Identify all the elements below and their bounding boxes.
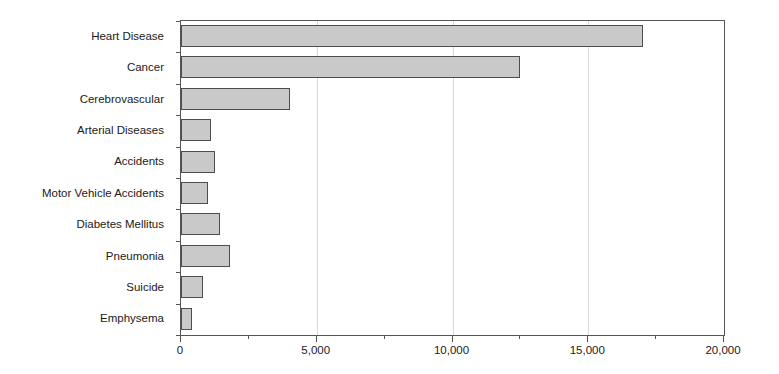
category-label: Suicide [126,279,164,295]
bar-row [181,304,724,335]
category-tick [176,304,181,305]
bar-row [181,84,724,115]
category-label: Cerebrovascular [80,91,164,107]
x-tick-label: 5,000 [301,344,330,356]
category-axis-labels: Heart DiseaseCancerCerebrovascularArteri… [0,20,172,334]
x-tick-major [180,335,181,342]
bar-row [181,52,724,83]
bar-row [181,209,724,240]
category-tick [176,147,181,148]
category-tick [176,115,181,116]
x-tick-label: 10,000 [434,344,469,356]
bar-row [181,21,724,52]
category-label: Diabetes Mellitus [76,216,164,232]
category-label: Heart Disease [91,28,164,44]
category-tick [176,241,181,242]
category-label: Emphysema [100,310,164,326]
bar[interactable] [181,56,520,78]
x-tick-major [723,335,724,342]
bar[interactable] [181,151,215,173]
bar[interactable] [181,88,290,110]
x-tick-major [587,335,588,342]
bar[interactable] [181,308,192,330]
x-tick-minor [519,335,520,339]
category-tick [176,272,181,273]
x-tick-label: 0 [177,344,183,356]
x-tick-minor [384,335,385,339]
bar-row [181,115,724,146]
bar-row [181,241,724,272]
category-label: Accidents [114,153,164,169]
bar[interactable] [181,25,643,47]
category-tick [176,21,181,22]
bar-row [181,272,724,303]
category-label: Pneumonia [106,248,164,264]
bar[interactable] [181,182,208,204]
x-tick-label: 15,000 [570,344,605,356]
bar-row [181,147,724,178]
category-tick [176,178,181,179]
category-tick [176,209,181,210]
category-label: Arterial Diseases [77,122,164,138]
bar[interactable] [181,245,230,267]
bar[interactable] [181,213,220,235]
x-axis-ticks [180,335,723,343]
bar-row [181,178,724,209]
bar[interactable] [181,276,203,298]
category-tick [176,52,181,53]
category-tick [176,84,181,85]
plot-area [180,20,725,336]
x-tick-label: 20,000 [705,344,740,356]
category-label: Cancer [127,59,164,75]
x-tick-major [452,335,453,342]
x-axis-tick-labels: 05,00010,00015,00020,000 [0,344,779,364]
bar[interactable] [181,119,211,141]
x-tick-major [316,335,317,342]
category-label: Motor Vehicle Accidents [42,185,164,201]
bar-chart: Heart DiseaseCancerCerebrovascularArteri… [0,0,779,374]
x-tick-minor [655,335,656,339]
x-tick-minor [248,335,249,339]
